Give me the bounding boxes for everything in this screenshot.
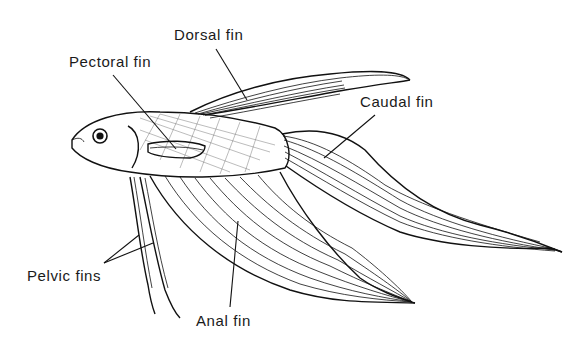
label-pelvic-fins: Pelvic fins bbox=[27, 268, 101, 283]
leader-pelvic-1 bbox=[104, 235, 139, 263]
anal-fin bbox=[150, 172, 415, 303]
label-dorsal-fin: Dorsal fin bbox=[174, 27, 243, 42]
leader-dorsal bbox=[216, 49, 247, 100]
label-anal-fin: Anal fin bbox=[196, 313, 251, 328]
fish-illustration bbox=[0, 0, 588, 343]
caudal-fin bbox=[282, 131, 562, 252]
leader-caudal bbox=[324, 115, 375, 158]
label-caudal-fin: Caudal fin bbox=[360, 94, 434, 109]
fish-body bbox=[72, 112, 289, 177]
pelvic-fins bbox=[130, 177, 180, 318]
label-pectoral-fin: Pectoral fin bbox=[69, 54, 151, 69]
pectoral-fin bbox=[148, 141, 205, 158]
fish-diagram: Dorsal fin Pectoral fin Caudal fin Pelvi… bbox=[0, 0, 588, 343]
